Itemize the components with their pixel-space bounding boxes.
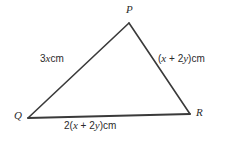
side-PR-line <box>129 23 190 114</box>
side-length-label-QR: 2(x + 2y)cm <box>64 120 116 131</box>
side-length-label-PR: (x + 2y)cm <box>158 53 205 64</box>
vertex-label-P: P <box>126 4 133 15</box>
pr-operator: + <box>166 53 177 64</box>
side-PQ-line <box>28 23 129 118</box>
pq-unit: cm <box>50 53 63 64</box>
vertex-label-Q: Q <box>14 110 22 121</box>
qr-unit: cm <box>103 120 116 131</box>
qr-operator: + <box>78 120 89 131</box>
triangle-diagram-canvas: P Q R 3xcm (x + 2y)cm 2(x + 2y)cm <box>0 0 230 142</box>
pr-unit: cm <box>191 53 204 64</box>
side-QR-line <box>28 114 190 118</box>
vertex-label-R: R <box>196 107 203 118</box>
side-length-label-PQ: 3xcm <box>40 53 64 64</box>
